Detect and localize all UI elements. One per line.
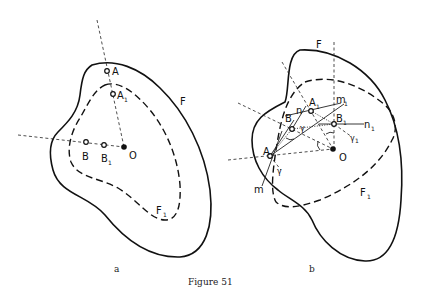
label-gamma1-sub: 1 — [355, 137, 359, 144]
label-o: O — [129, 149, 137, 162]
sublabel-a: a — [114, 264, 120, 274]
label-f1: F — [156, 204, 162, 217]
point-a1 — [309, 109, 314, 114]
line-ab — [270, 120, 294, 156]
label-b1: B — [101, 152, 108, 165]
label-b1: B — [336, 112, 343, 125]
label-m: m — [254, 183, 264, 196]
label-b: B — [285, 112, 292, 125]
point-a — [105, 69, 110, 74]
ray-a1 — [282, 62, 333, 149]
label-b1-sub: 1 — [108, 159, 112, 166]
label-f1-sub: 1 — [367, 193, 371, 200]
label-o: O — [339, 151, 347, 164]
label-m1-sub: 1 — [344, 100, 348, 107]
dotted-b-b1 — [292, 124, 334, 129]
point-b1 — [102, 143, 107, 148]
label-a: A — [112, 65, 119, 78]
angle-arc-b — [286, 138, 294, 140]
label-a1-sub: 1 — [124, 96, 128, 103]
label-a1: A — [117, 89, 124, 102]
figure-51-diagram: A A 1 B B 1 O F F 1 a — [0, 0, 421, 296]
point-b — [84, 140, 89, 145]
angle-arc-o2 — [326, 132, 334, 134]
label-n: n — [296, 104, 302, 117]
figure-a: A A 1 B B 1 O F F 1 a — [18, 20, 211, 274]
label-f: F — [316, 38, 322, 51]
label-gamma-b: γ — [300, 124, 305, 133]
label-a1: A — [309, 96, 316, 109]
sublabel-b: b — [309, 264, 315, 274]
label-a: A — [263, 145, 270, 158]
label-f: F — [180, 95, 186, 108]
point-o — [121, 144, 127, 150]
label-gamma: γ — [277, 167, 282, 176]
line-m — [262, 131, 282, 186]
figure-b: A B A 1 B 1 O m m 1 n n 1 γ γ γ 1 F F 1 … — [228, 38, 402, 274]
label-f1-sub: 1 — [163, 211, 167, 218]
label-a1-sub: 1 — [316, 103, 320, 110]
label-n1-sub: 1 — [371, 125, 375, 132]
label-f1: F — [360, 186, 366, 199]
point-a1 — [111, 92, 116, 97]
label-n1: n — [364, 118, 370, 131]
point-o — [330, 146, 336, 152]
label-b1-sub: 1 — [343, 119, 347, 126]
figure-caption: Figure 51 — [188, 277, 233, 287]
point-b — [290, 127, 295, 132]
ray-b — [18, 135, 124, 147]
ray-a — [228, 149, 333, 160]
label-b: B — [82, 150, 89, 163]
